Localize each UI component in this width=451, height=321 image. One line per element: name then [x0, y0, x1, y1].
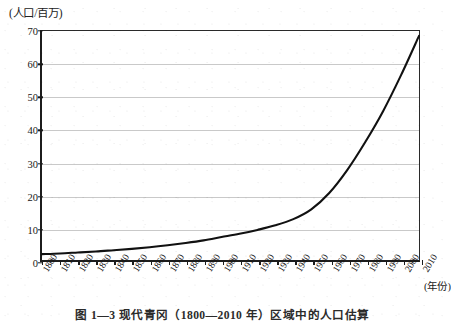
- y-tick-label: 30: [28, 158, 39, 169]
- y-tick-label: 20: [28, 191, 39, 202]
- y-tick-label: 0: [33, 258, 38, 269]
- y-tick-label: 70: [28, 26, 39, 37]
- x-tick-label: 2010: [420, 252, 439, 274]
- y-tick-label: 60: [28, 59, 39, 70]
- plot-area: 010203040506070 180018101820183018401850…: [40, 30, 420, 262]
- population-curve-svg: [42, 31, 419, 260]
- x-axis-unit-label: (年份): [424, 278, 451, 293]
- figure-caption: 图 1—3 现代青冈（1800—2010 年）区域中的人口估算: [0, 306, 445, 321]
- y-tick-label: 40: [28, 125, 39, 136]
- y-tick-label: 50: [28, 92, 39, 103]
- y-axis-unit-label: (人口/百万): [9, 4, 62, 20]
- y-tick-label: 10: [28, 224, 39, 235]
- population-curve-path: [42, 36, 419, 254]
